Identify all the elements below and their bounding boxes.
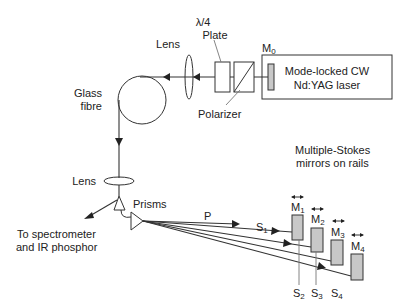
mirror-m1[interactable]: M1 (291, 195, 305, 285)
rail-arrow-icon (332, 219, 336, 223)
p-label: P (204, 210, 211, 222)
rail-arrow-icon (360, 233, 364, 237)
input-lens: Lens (140, 38, 215, 99)
beam-arrow-icon (115, 138, 123, 146)
laser-box (262, 55, 392, 99)
stokes-label-line2: mirrors on rails (296, 157, 369, 169)
beam-arrow-icon (163, 73, 170, 81)
laser-source: Mode-locked CW Nd:YAG laser M0 (262, 42, 392, 99)
s3-label: S3 (311, 287, 323, 301)
rail-arrow-icon (311, 207, 315, 211)
raman-laser-setup-diagram: Mode-locked CW Nd:YAG laser M0 Polarizer… (0, 0, 405, 308)
m2-label: M2 (311, 213, 325, 227)
polarizer: Polarizer (198, 62, 268, 120)
lens-bottom (104, 177, 134, 185)
prisms-label: Prisms (133, 198, 167, 210)
prism-1 (114, 196, 125, 210)
mirror-m2[interactable]: M2 (311, 207, 325, 285)
beam-arrow-icon (283, 239, 292, 247)
glass-fibre: Glass fibre (74, 76, 166, 178)
beam-arrow-icon (232, 220, 240, 228)
glass-label-line1: Glass (74, 87, 103, 99)
mirror-m3[interactable]: M3 (331, 219, 345, 265)
spectro-label-line2: and IR phosphor (16, 241, 98, 253)
lens-bottom-label: Lens (72, 175, 96, 187)
rail-arrow-icon (300, 195, 304, 199)
quarter-wave-plate: λ/4 Plate (196, 16, 234, 92)
plate-label: Plate (202, 29, 227, 41)
beam-arrow-icon (271, 227, 280, 235)
beam-arrow-icon (84, 212, 94, 219)
rail-arrow-icon (351, 233, 355, 237)
prisms: Prisms To spectrometer and IR phosphor (16, 196, 167, 253)
m3-label: M3 (331, 226, 345, 240)
m0-label: M0 (262, 42, 276, 56)
glass-label-line2: fibre (81, 100, 102, 112)
s4-label: S4 (331, 287, 343, 301)
spectro-label-line1: To spectrometer (17, 228, 96, 240)
rail-arrow-icon (320, 207, 324, 211)
prism-2 (131, 212, 143, 230)
lens-top-label: Lens (156, 38, 180, 50)
mirror-m0 (268, 64, 274, 90)
rail-arrow-icon (341, 219, 345, 223)
rail-arrow-icon (291, 195, 295, 199)
m4-label: M4 (351, 240, 365, 254)
s1-label: S1 (256, 221, 268, 235)
mirror-m4[interactable]: M4 (351, 233, 365, 280)
fibre-coil (118, 76, 166, 124)
lambda-label: λ/4 (196, 16, 211, 28)
polarizer-label: Polarizer (198, 108, 242, 120)
laser-label-line1: Mode-locked CW (285, 65, 370, 77)
beam-arrow-icon (193, 73, 200, 81)
m1-label: M1 (291, 201, 305, 215)
stokes-label-line1: Multiple-Stokes (295, 144, 371, 156)
laser-label-line2: Nd:YAG laser (294, 79, 361, 91)
collimating-lens: Lens (72, 175, 134, 196)
s2-label: S2 (293, 287, 305, 301)
waveplate (215, 62, 230, 92)
stokes-mirrors: Multiple-Stokes mirrors on rails M1 M2 (291, 144, 371, 301)
